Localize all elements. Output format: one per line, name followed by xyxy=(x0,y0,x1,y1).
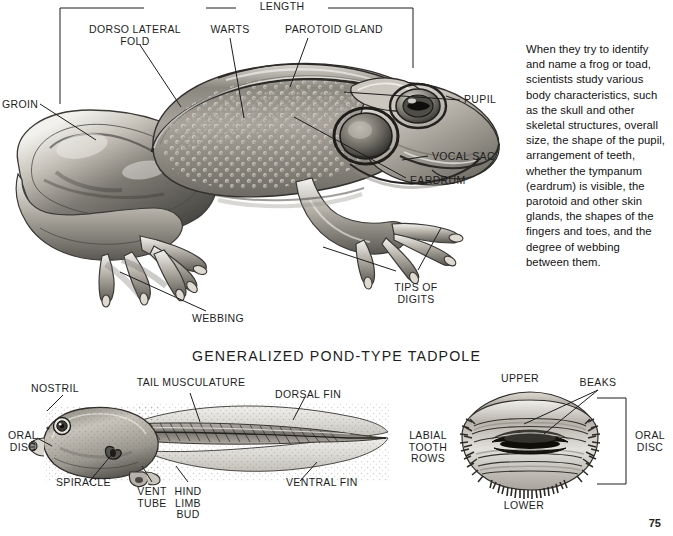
label-dorsal-fin: DORSAL FIN xyxy=(275,389,341,401)
label-parotoid-gland: PAROTOID GLAND xyxy=(264,24,404,36)
label-beaks: BEAKS xyxy=(572,377,624,389)
label-oral-disc-left: ORAL DISC xyxy=(1,430,45,453)
label-lower: LOWER xyxy=(496,500,552,512)
label-hind-limb-bud: HIND LIMB BUD xyxy=(168,486,208,521)
label-groin: GROIN xyxy=(2,99,38,111)
label-warts: WARTS xyxy=(191,24,269,36)
oral-disc-detail-illustration xyxy=(448,386,608,504)
label-labial-tooth-rows: LABIAL TOOTH ROWS xyxy=(404,430,452,465)
label-oral-disc-right: ORAL DISC xyxy=(630,430,670,453)
label-webbing: WEBBING xyxy=(178,313,258,325)
label-length: LENGTH xyxy=(236,1,328,13)
label-upper: UPPER xyxy=(492,373,548,385)
label-vocal-sac: VOCAL SAC xyxy=(432,151,495,163)
label-eardrum: EARDRUM xyxy=(410,175,466,187)
label-tail-musculature: TAIL MUSCULATURE xyxy=(131,377,251,389)
anatomy-plate-page: LENGTH DORSO LATERAL FOLD WARTS PAROTOID… xyxy=(0,0,673,536)
label-dorso-lateral-fold: DORSO LATERAL FOLD xyxy=(60,24,210,47)
label-tips-of-digits: TIPS OF DIGITS xyxy=(380,282,452,305)
label-ventral-fin: VENTRAL FIN xyxy=(286,477,358,489)
descriptive-paragraph: When they try to identify and name a fro… xyxy=(526,42,666,270)
tadpole-section-heading: GENERALIZED POND-TYPE TADPOLE xyxy=(0,348,673,364)
label-nostril: NOSTRIL xyxy=(31,383,79,395)
label-spiracle: SPIRACLE xyxy=(56,477,111,489)
label-pupil: PUPIL xyxy=(464,94,496,106)
page-number: 75 xyxy=(649,517,661,529)
